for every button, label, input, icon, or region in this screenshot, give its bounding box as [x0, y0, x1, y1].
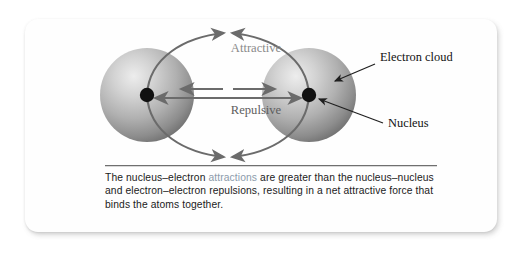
bond-force-diagram: Attractive Repulsive Electron cloud Nucl… [25, 19, 497, 167]
right-nucleus [302, 88, 316, 102]
figure-page: Attractive Repulsive Electron cloud Nucl… [0, 0, 526, 255]
left-nucleus [140, 88, 154, 102]
electron-cloud-label: Electron cloud [380, 50, 453, 64]
caption-text-part1: The nucleus–electron [105, 172, 208, 183]
figure-card: Attractive Repulsive Electron cloud Nucl… [25, 19, 497, 232]
caption-highlight-attractions: attractions [208, 172, 257, 183]
nucleus-label: Nucleus [388, 116, 429, 130]
caption-divider [105, 165, 437, 167]
attractive-label: Attractive [231, 41, 282, 55]
figure-caption: The nucleus–electron attractions are gre… [105, 171, 445, 211]
diagram-canvas: Attractive Repulsive Electron cloud Nucl… [25, 19, 497, 167]
repulsive-label: Repulsive [231, 103, 282, 117]
